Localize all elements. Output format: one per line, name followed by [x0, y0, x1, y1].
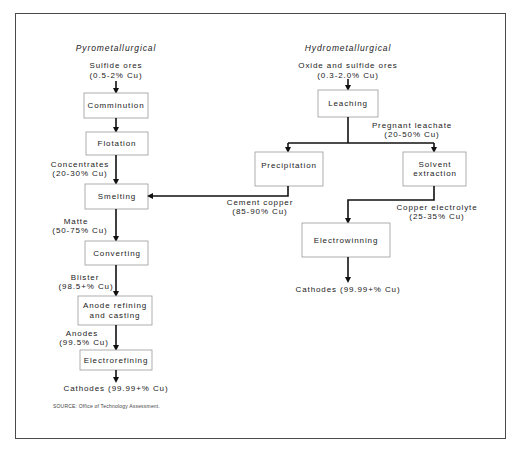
flow-concentrates-label: Concentrates	[51, 160, 109, 169]
flow-diagram: Pyrometallurgical Sulfide ores (0.5-2% C…	[0, 0, 522, 457]
step-solvent-extraction-label-1: Solvent	[419, 160, 452, 169]
step-anode-refining-label-2: and casting	[90, 311, 141, 320]
step-smelting: Smelting	[85, 184, 148, 209]
step-converting-label: Converting	[93, 249, 141, 258]
step-comminution: Comminution	[84, 93, 148, 118]
flow-blister-grade: (98.5+% Cu)	[58, 282, 113, 291]
flow-matte-grade: (50-75% Cu)	[52, 226, 107, 235]
step-smelting-label: Smelting	[98, 192, 136, 201]
pyro-heading: Pyrometallurgical	[76, 43, 157, 53]
flow-copper-electrolyte-grade: (25-35% Cu)	[409, 212, 464, 221]
step-electrorefining: Electrorefining	[80, 350, 152, 370]
step-leaching-label: Leaching	[328, 99, 368, 108]
step-electrowinning: Electrowinning	[302, 223, 390, 257]
flow-cement-copper-grade: (85-90% Cu)	[232, 207, 287, 216]
pyro-output-cathodes: Cathodes (99.99+% Cu)	[64, 384, 169, 393]
step-precipitation: Precipitation	[255, 152, 323, 186]
flow-pregnant-leachate-label: Pregnant leachate	[372, 121, 452, 130]
step-solvent-extraction: Solvent extraction	[403, 152, 466, 186]
hydro-heading: Hydrometallurgical	[305, 43, 392, 53]
flow-copper-electrolyte-label: Copper electrolyte	[396, 203, 477, 212]
step-flotation: Flotation	[86, 132, 148, 155]
flow-anodes-grade: (99.5% Cu)	[59, 338, 108, 347]
step-electrowinning-label: Electrowinning	[314, 236, 379, 245]
step-comminution-label: Comminution	[87, 101, 144, 110]
flow-matte-label: Matte	[64, 217, 89, 226]
flow-blister-label: Blister	[71, 273, 100, 282]
pyro-input-grade: (0.5-2% Cu)	[89, 71, 142, 80]
step-converting: Converting	[85, 241, 148, 265]
step-flotation-label: Flotation	[98, 139, 137, 148]
pyro-input-label: Sulfide ores	[89, 61, 142, 70]
hydro-input-label: Oxide and sulfide ores	[298, 61, 397, 70]
hydro-output-cathodes: Cathodes (99.99+% Cu)	[296, 285, 401, 294]
step-electrorefining-label: Electrorefining	[84, 356, 149, 365]
arrow-precipitation-to-smelting	[150, 186, 288, 196]
flow-cement-copper-label: Cement copper	[227, 198, 293, 207]
step-precipitation-label: Precipitation	[261, 161, 317, 170]
step-anode-refining-label-1: Anode refining	[83, 301, 147, 310]
step-solvent-extraction-label-2: extraction	[413, 169, 457, 178]
flow-anodes-label: Anodes	[66, 329, 99, 338]
step-anode-refining: Anode refining and casting	[78, 296, 152, 325]
step-leaching: Leaching	[318, 90, 378, 117]
flow-pregnant-leachate-grade: (20-50% Cu)	[384, 130, 439, 139]
hydro-input-grade: (0.3-2.0% Cu)	[317, 71, 379, 80]
source-note: SOURCE: Office of Technology Assessment.	[53, 403, 160, 409]
flow-concentrates-grade: (20-30% Cu)	[52, 169, 107, 178]
